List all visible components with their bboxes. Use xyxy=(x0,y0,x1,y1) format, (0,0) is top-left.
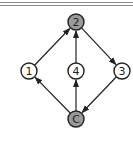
node-3: 3 xyxy=(114,63,130,79)
edge-C-to-1 xyxy=(35,77,70,113)
node-C: C xyxy=(68,111,84,127)
edge-2-to-3 xyxy=(81,28,115,65)
node-2: 2 xyxy=(68,14,84,30)
node-4: 4 xyxy=(68,63,84,79)
directed-graph: 2143C xyxy=(0,0,133,145)
node-1: 1 xyxy=(21,63,37,79)
node-label: 1 xyxy=(26,65,33,78)
node-label: 2 xyxy=(73,16,80,29)
edge-3-to-C xyxy=(82,77,116,113)
node-label: C xyxy=(72,113,80,126)
node-label: 4 xyxy=(73,65,80,78)
edge-1-to-2 xyxy=(35,28,70,65)
node-label: 3 xyxy=(119,65,126,78)
